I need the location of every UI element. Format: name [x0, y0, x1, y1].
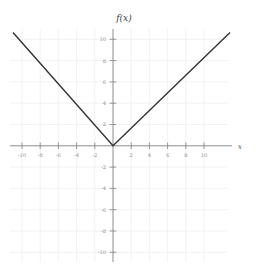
y-tick-label: -4	[101, 185, 107, 191]
x-tick-label: 6	[166, 152, 169, 158]
y-tick-label: 10	[99, 36, 106, 42]
x-tick-label: -10	[18, 152, 26, 158]
chart-title: f(x)	[115, 13, 132, 23]
plot-canvas: -10 -8 -6 -4 -2 2 4 6 8 10 10 8 6 4 2 -2…	[0, 0, 256, 269]
x-tick-label: -4	[74, 152, 80, 158]
x-tick-label: 8	[184, 152, 187, 158]
y-tick-label: -8	[101, 228, 106, 234]
y-tick-label: -2	[101, 164, 106, 170]
y-tick-label: -10	[98, 249, 106, 255]
y-tick-label: 8	[103, 58, 106, 64]
y-tick-label: 2	[103, 121, 106, 127]
chart-figure: -10 -8 -6 -4 -2 2 4 6 8 10 10 8 6 4 2 -2…	[0, 0, 256, 269]
x-tick-label: -8	[38, 152, 43, 158]
plot-background	[0, 0, 256, 269]
x-tick-label: 10	[201, 152, 208, 158]
x-tick-label: -6	[56, 152, 61, 158]
x-axis-label: x	[238, 143, 242, 151]
x-tick-label: -2	[92, 152, 97, 158]
x-tick-label: 2	[130, 152, 133, 158]
y-tick-label: -6	[101, 207, 106, 213]
y-tick-label: 6	[103, 79, 106, 85]
